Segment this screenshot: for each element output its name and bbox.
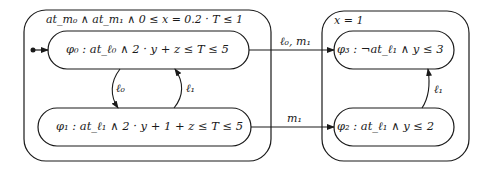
state-phi1-label: φ₁ : at_ℓ₁ ∧ 2 · y + 1 + z ≤ T ≤ 5 <box>56 121 243 133</box>
state-phi0-label: φ₀ : at_ℓ₀ ∧ 2 · y + z ≤ T ≤ 5 <box>66 44 229 56</box>
left-superstate-box <box>24 10 271 161</box>
transition-phi2-phi3 <box>422 69 429 108</box>
state-phi2-label: φ₂ : at_ℓ₁ ∧ y ≤ 2 <box>337 121 434 133</box>
left-superstate-label: at_m₀ ∧ at_m₁ ∧ 0 ≤ x = 0.2 · T ≤ 1 <box>46 14 243 25</box>
diagram-canvas <box>0 0 490 175</box>
transition-label-l1: ℓ₁ <box>186 83 195 94</box>
transition-phi1-phi0 <box>174 69 182 108</box>
transition-label-l0-m1: ℓ₀, m₁ <box>280 36 311 47</box>
right-superstate-label: x = 1 <box>334 15 363 26</box>
state-phi3-label: φ₃ : ¬at_ℓ₁ ∧ y ≤ 3 <box>337 44 444 56</box>
transition-label-phi2-phi3: ℓ₁ <box>434 84 443 95</box>
transition-label-l0: ℓ₀ <box>116 83 125 94</box>
transition-label-m1: m₁ <box>287 113 302 124</box>
